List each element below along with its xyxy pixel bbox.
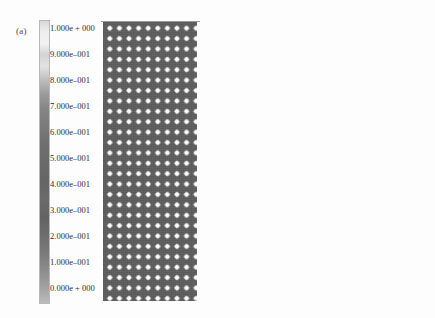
panel-a-particle-markers (103, 22, 197, 301)
colorbar-tick-label: 4.000e–001 (50, 180, 90, 189)
colorbar-tick-label: 2.000e–001 (50, 232, 90, 241)
colorbar-tick-label: 1.000e + 000 (50, 24, 95, 33)
colorbar-tick-label: 3.000e–001 (50, 206, 90, 215)
colorbar-tick-label: 1.000e–001 (50, 258, 90, 267)
panel-b: (b) 1.385e + 000 1.247e + 000 1.108e + 0… (218, 0, 435, 318)
colorbar-tick-label: 9.000e–001 (50, 50, 90, 59)
colorbar-tick-label: 6.000e–001 (50, 128, 90, 137)
panel-a-field (103, 22, 197, 301)
colorbar-tick-label: 8.000e–001 (50, 76, 90, 85)
panel-a-label: (a) (16, 26, 27, 36)
colorbar-tick-label: 7.000e–001 (50, 102, 90, 111)
panel-a-colorbar (39, 20, 50, 304)
colorbar-tick-label: 0.000e + 000 (50, 284, 95, 293)
colorbar-tick-label: 5.000e–001 (50, 154, 90, 163)
panel-a: (a) 1.000e + 000 9.000e–001 8.000e–001 7… (0, 0, 218, 318)
